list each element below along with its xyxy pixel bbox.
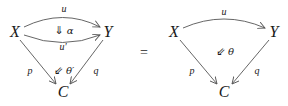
left-arrow-p xyxy=(20,40,56,84)
left-label-p: p xyxy=(28,66,33,76)
right-object-C: C xyxy=(219,84,230,100)
right-arrow-u xyxy=(183,19,265,28)
left-label-u-prime: u′ xyxy=(59,42,66,52)
double-southwest-arrow-icon: ⇙ xyxy=(54,64,63,77)
right-object-X: X xyxy=(169,24,179,40)
double-southwest-arrow-icon: ⇙ xyxy=(216,45,225,58)
equals-sign: = xyxy=(140,46,148,60)
left-two-cell-theta-prime: ⇙θ′ xyxy=(54,65,75,76)
right-label-q: q xyxy=(255,66,260,76)
right-arrow-q xyxy=(232,40,269,84)
right-label-p: p xyxy=(190,66,195,76)
left-object-Y: Y xyxy=(104,24,113,40)
left-two-cell-theta-prime-label: θ′ xyxy=(66,65,74,76)
right-two-cell-theta: ⇙θ xyxy=(216,46,234,57)
left-object-C: C xyxy=(58,84,69,100)
left-arrow-q xyxy=(70,40,103,84)
right-two-cell-theta-label: θ xyxy=(228,46,234,57)
right-label-u: u xyxy=(222,7,227,17)
left-label-u: u xyxy=(62,4,67,14)
left-label-q: q xyxy=(94,66,99,76)
left-two-cell-alpha-label: α xyxy=(67,25,74,36)
left-object-X: X xyxy=(10,24,20,40)
double-down-arrow-icon: ⇓ xyxy=(55,24,64,37)
left-two-cell-alpha: ⇓α xyxy=(55,25,74,36)
right-object-Y: Y xyxy=(270,24,279,40)
right-arrow-p xyxy=(180,40,217,84)
